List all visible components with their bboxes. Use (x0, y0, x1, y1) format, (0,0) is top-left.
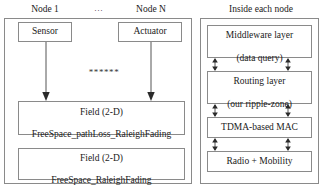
actuator-to-field-arrow (143, 42, 159, 102)
field-raleigh-label: Field (2-D) FreeSpace_RaleighFading (49, 142, 153, 187)
tdma-mac-label: TDMA-based MAC (219, 122, 300, 133)
field-raleigh-line1: Field (2-D) (80, 153, 123, 163)
architecture-diagram: Node 1 ... Node N Inside each node Senso… (0, 0, 325, 196)
sensor-box-label: Sensor (30, 26, 60, 37)
routing-tdma-arrow-left (210, 104, 220, 117)
middleware-layer-line1: Middleware layer (226, 30, 293, 40)
middleware-layer-line2: (data query) (236, 53, 282, 63)
repeat-marker: ****** (80, 67, 128, 77)
field-pathloss-line2: FreeSpace_pathLoss_RaleighFading (32, 129, 171, 139)
field-pathloss-label: Field (2-D) FreeSpace_pathLoss_RaleighFa… (30, 96, 173, 141)
field-raleigh-box: Field (2-D) FreeSpace_RaleighFading (18, 148, 185, 180)
tdma-radio-arrow-right (283, 138, 293, 151)
field-pathloss-line1: Field (2-D) (80, 107, 123, 117)
sensor-to-field-arrow (38, 42, 54, 102)
middleware-routing-arrow-left (210, 58, 220, 71)
inside-each-node-caption: Inside each node (216, 4, 306, 15)
node-1-label: Node 1 (18, 4, 72, 15)
node-n-label: Node N (122, 4, 180, 15)
field-pathloss-box: Field (2-D) FreeSpace_pathLoss_RaleighFa… (18, 101, 185, 135)
radio-mobility-box: Radio + Mobility (207, 151, 312, 172)
tdma-mac-box: TDMA-based MAC (207, 117, 312, 138)
actuator-box-label: Actuator (131, 26, 168, 37)
sensor-box: Sensor (18, 22, 72, 42)
routing-layer-box: Routing layer (our ripple-zone) (207, 71, 312, 104)
field-raleigh-line2: FreeSpace_RaleighFading (51, 175, 151, 185)
radio-mobility-label: Radio + Mobility (224, 156, 294, 167)
tdma-radio-arrow-left (210, 138, 220, 151)
middleware-layer-box: Middleware layer (data query) (207, 25, 312, 58)
actuator-box: Actuator (118, 22, 182, 42)
routing-layer-line1: Routing layer (234, 76, 286, 86)
node-ellipsis-label: ... (86, 5, 112, 14)
middleware-routing-arrow-right (283, 58, 293, 71)
routing-tdma-arrow-right (283, 104, 293, 117)
